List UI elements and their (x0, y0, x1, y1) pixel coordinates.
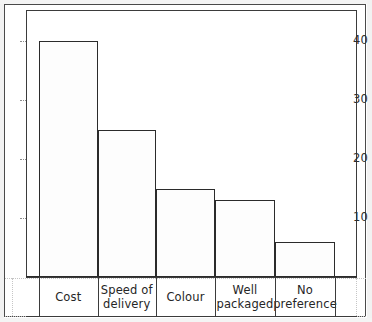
y-axis-tick-label: 10 (346, 212, 372, 224)
y-axis-tick-label: 30 (346, 94, 372, 106)
bar (275, 242, 335, 277)
bar (39, 41, 98, 277)
bar (156, 189, 215, 278)
x-axis-category-label: Nopreference (275, 278, 335, 316)
x-axis-category-label: Speed ofdelivery (98, 278, 157, 316)
y-axis-tick-mark (20, 159, 26, 160)
gridline-vertical-label-strip (12, 278, 13, 316)
y-axis-tick-mark (20, 100, 26, 101)
y-axis-tick-mark (20, 218, 26, 219)
y-axis-tick-label: 40 (346, 35, 372, 47)
category-label-line2: preference (273, 297, 337, 311)
bar (215, 200, 275, 277)
category-label-line2: delivery (101, 297, 153, 311)
label-strip-bottom-rule (26, 316, 357, 317)
category-label-line1: Cost (55, 290, 81, 304)
x-axis-baseline (26, 276, 357, 277)
x-axis-category-label: Cost (39, 278, 98, 316)
category-divider (98, 278, 99, 317)
category-divider (275, 278, 276, 317)
chart-canvas: 40302010 CostSpeed ofdeliveryColourWellp… (0, 0, 372, 322)
category-label-line1: Colour (166, 290, 204, 304)
category-label-line2: packaged (216, 297, 273, 311)
category-divider (39, 278, 40, 317)
category-divider (156, 278, 157, 317)
x-axis-category-label: Wellpackaged (215, 278, 275, 316)
y-axis-tick-mark (20, 41, 26, 42)
category-label-line1: Well (216, 283, 273, 297)
category-divider (215, 278, 216, 317)
category-label-line1: No (273, 283, 337, 297)
x-axis-label-strip: CostSpeed ofdeliveryColourWellpackagedNo… (26, 278, 357, 316)
x-axis-category-label: Colour (156, 278, 215, 316)
bar (98, 130, 157, 278)
y-axis-tick-label: 20 (346, 153, 372, 165)
category-label-line1: Speed of (101, 283, 153, 297)
category-divider (335, 278, 336, 317)
bar-chart-figure: 40302010 CostSpeed ofdeliveryColourWellp… (0, 0, 372, 322)
